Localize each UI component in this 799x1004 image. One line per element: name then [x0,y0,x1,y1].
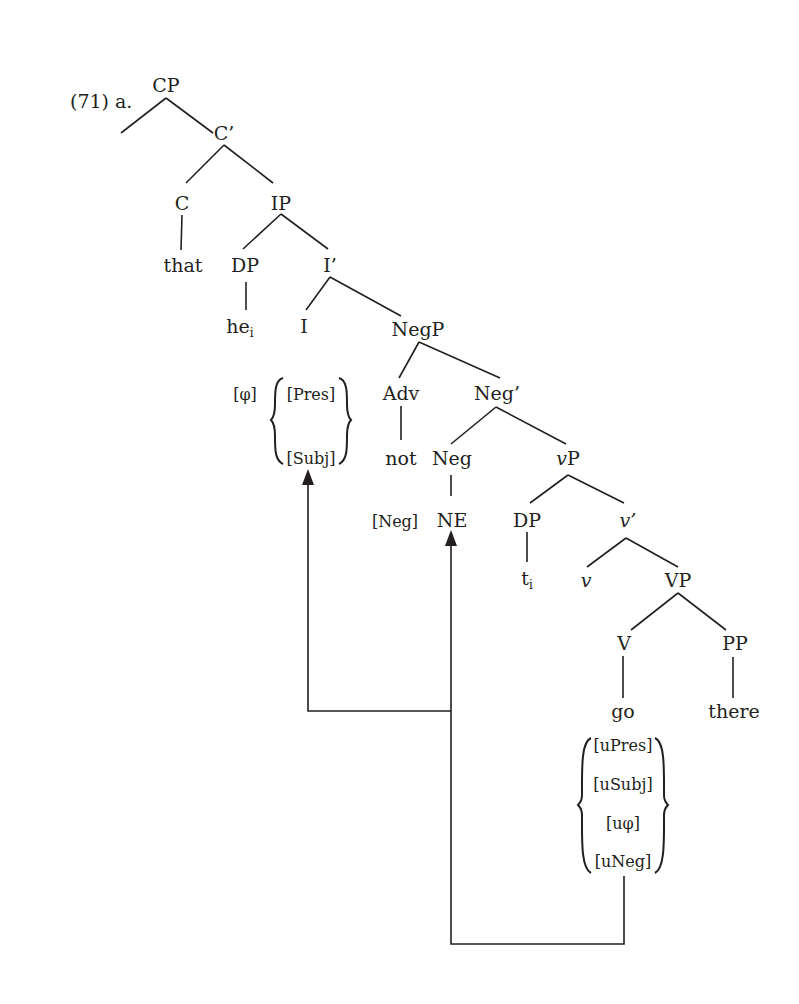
right-brace-icon [655,738,668,873]
node-adv: Adv [382,382,420,404]
example-label: (71) a. [70,90,132,112]
node-i-bar: I’ [323,254,337,276]
leaf-that: that [164,254,203,276]
feature-usubj: [uSubj] [593,775,652,794]
feature-neg: [Neg] [372,512,418,531]
node-dp-subject: DP [231,254,259,276]
node-pp: PP [722,632,748,654]
arrowhead-icon [302,469,314,485]
node-ip: IP [271,192,292,214]
node-c: C [175,192,190,214]
node-negp: NegP [392,318,445,340]
feature-pres: [Pres] [287,385,336,404]
feature-phi: [φ] [233,385,257,404]
right-brace-icon [339,378,351,464]
feature-uphi: [uφ] [606,814,640,833]
node-vp: VP [664,569,692,591]
leaf-ne: NE [437,509,468,531]
node-little-v: v [581,569,592,591]
i-features: [φ] [Pres] [Subj] [233,378,351,468]
node-neg: Neg [432,447,472,469]
syntax-tree-diagram: (71) a. [0,0,799,1004]
leaf-he: hei [226,315,253,340]
leaf-trace: ti [521,567,533,592]
node-i: I [300,315,308,337]
agree-arrows [302,469,624,944]
node-cp: CP [152,74,180,96]
left-brace-icon [578,738,591,873]
leaf-go: go [611,700,635,722]
node-c-bar: C’ [214,122,235,144]
feature-upres: [uPres] [594,736,653,755]
left-brace-icon [271,378,283,464]
leaf-there: there [708,700,759,722]
tree-branches [121,98,733,698]
node-neg-bar: Neg’ [474,382,520,404]
feature-subj: [Subj] [287,449,336,468]
node-v: V [616,632,631,654]
feature-uneg: [uNeg] [595,852,652,871]
node-v-bar: v’ [620,509,637,531]
go-features: [uPres] [uSubj] [uφ] [uNeg] [578,736,668,873]
node-little-vp: vP [556,447,580,469]
arrowhead-icon [445,530,457,546]
leaf-not: not [385,447,417,469]
node-dp-trace: DP [513,509,541,531]
